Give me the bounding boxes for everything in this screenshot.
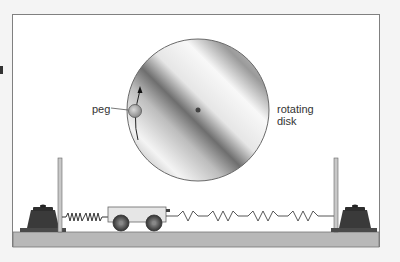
right-post — [334, 158, 338, 232]
rotating-disk-label-line2: disk — [277, 115, 297, 127]
rotating-disk — [127, 39, 269, 181]
left-spring — [62, 213, 108, 221]
peg — [129, 105, 142, 118]
apparatus-diagram — [0, 0, 400, 262]
rotating-disk-label-line1: rotating — [277, 103, 314, 115]
right-spring — [166, 211, 335, 221]
disk-center-axle — [196, 108, 201, 113]
ground — [13, 232, 379, 247]
cart — [108, 207, 170, 231]
left-post — [58, 158, 62, 232]
peg-label: peg — [92, 103, 110, 115]
peg-leader-line — [111, 108, 128, 110]
